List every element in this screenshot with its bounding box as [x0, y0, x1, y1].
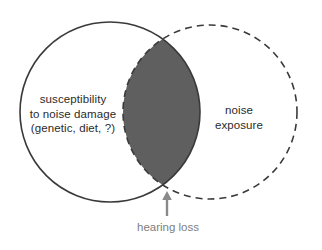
susceptibility-label-line-3: (genetic, diet, ?)	[10, 121, 136, 136]
venn-diagram-figure: susceptibility to noise damage (genetic,…	[0, 0, 322, 250]
noise-exposure-set-label: noise exposure	[196, 103, 282, 132]
arrow-head	[162, 191, 172, 200]
susceptibility-label-line-1: susceptibility	[10, 92, 136, 107]
hearing-loss-caption: hearing loss	[100, 220, 236, 234]
hearing-loss-arrow	[162, 191, 172, 216]
susceptibility-label-line-2: to noise damage	[10, 107, 136, 122]
susceptibility-set-label: susceptibility to noise damage (genetic,…	[10, 92, 136, 136]
noise-exposure-label-line-1: noise	[196, 103, 282, 118]
noise-exposure-label-line-2: exposure	[196, 118, 282, 133]
